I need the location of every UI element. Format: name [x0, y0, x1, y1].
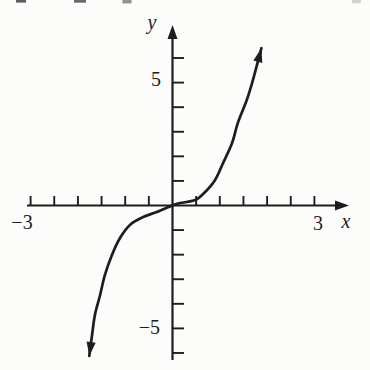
x-axis-tick-label-neg3: −3	[11, 211, 32, 233]
graph-canvas: y x 5 −5 −3 3	[0, 0, 370, 370]
x-axis-tick-label-3: 3	[313, 212, 323, 234]
y-axis-tick-label-5: 5	[151, 68, 161, 90]
y-axis-label: y	[146, 11, 157, 34]
arrowhead	[87, 341, 96, 356]
arrowhead	[253, 48, 262, 63]
cropped-text-artifact	[74, 0, 86, 3]
arrowhead	[168, 25, 178, 39]
y-axis-tick-label-neg5: −5	[139, 316, 160, 338]
x-axis-label: x	[341, 210, 351, 232]
axes	[27, 25, 349, 360]
arrowhead	[335, 201, 349, 211]
cropped-text-artifact	[123, 0, 132, 3]
page-crop-artifacts	[16, 0, 361, 3]
function-curve-path	[89, 48, 261, 356]
cubic-curve	[87, 48, 263, 356]
cropped-text-artifact	[16, 0, 26, 3]
cropped-text-artifact	[352, 0, 361, 3]
cubic-function-graph-figure: y x 5 −5 −3 3	[0, 0, 370, 370]
